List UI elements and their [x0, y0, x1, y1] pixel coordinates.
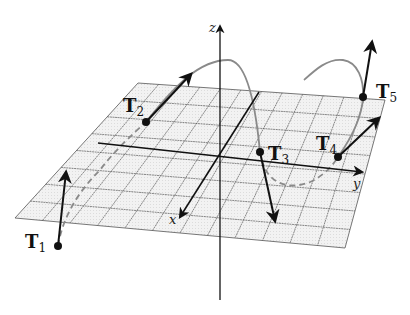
tangent-arrow-5 — [363, 42, 372, 97]
label-T5: T5 — [376, 81, 397, 105]
xy-grid-plane — [15, 83, 385, 248]
tangent-vector-diagram: z y x T1 T2 T3 T4 T5 — [0, 0, 410, 315]
point-5 — [359, 93, 367, 101]
point-3 — [256, 148, 264, 156]
point-1 — [54, 242, 62, 250]
x-axis-label: x — [169, 212, 177, 227]
label-T1: T1 — [25, 231, 46, 255]
z-axis-label: z — [208, 20, 216, 35]
point-2 — [142, 118, 150, 126]
y-axis-label: y — [352, 176, 361, 191]
